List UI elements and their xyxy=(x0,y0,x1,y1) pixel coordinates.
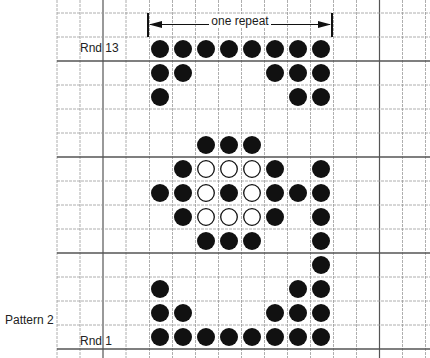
filled-circle-stitch xyxy=(220,232,238,250)
filled-circle-stitch xyxy=(197,136,215,154)
filled-circle-stitch xyxy=(151,64,169,82)
filled-circle-stitch xyxy=(312,88,330,106)
filled-circle-stitch xyxy=(289,64,307,82)
filled-circle-stitch xyxy=(220,136,238,154)
knitting-chart xyxy=(0,0,430,358)
round-13-label: Rnd 13 xyxy=(80,41,119,55)
filled-circle-stitch xyxy=(289,328,307,346)
open-circle-stitch xyxy=(198,161,215,178)
open-circle-stitch xyxy=(244,185,261,202)
filled-circle-stitch xyxy=(151,304,169,322)
filled-circle-stitch xyxy=(151,40,169,58)
filled-circle-stitch xyxy=(243,136,261,154)
filled-circle-stitch xyxy=(243,328,261,346)
open-circle-stitch xyxy=(198,209,215,226)
filled-circle-stitch xyxy=(151,184,169,202)
repeat-label: one repeat xyxy=(148,14,332,28)
filled-circle-stitch xyxy=(197,40,215,58)
round-1-label: Rnd 1 xyxy=(80,334,112,348)
filled-circle-stitch xyxy=(266,184,284,202)
filled-circle-stitch xyxy=(266,160,284,178)
open-circle-stitch xyxy=(221,209,238,226)
filled-circle-stitch xyxy=(312,40,330,58)
filled-circle-stitch xyxy=(220,184,238,202)
filled-circle-stitch xyxy=(289,280,307,298)
open-circle-stitch xyxy=(198,185,215,202)
filled-circle-stitch xyxy=(197,328,215,346)
filled-circle-stitch xyxy=(312,328,330,346)
filled-circle-stitch xyxy=(243,232,261,250)
pattern-label: Pattern 2 xyxy=(5,313,54,327)
filled-circle-stitch xyxy=(312,304,330,322)
filled-circle-stitch xyxy=(174,208,192,226)
filled-circle-stitch xyxy=(266,208,284,226)
filled-circle-stitch xyxy=(312,232,330,250)
open-circle-stitch xyxy=(221,161,238,178)
filled-circle-stitch xyxy=(151,328,169,346)
filled-circle-stitch xyxy=(174,160,192,178)
filled-circle-stitch xyxy=(289,40,307,58)
filled-circle-stitch xyxy=(243,40,261,58)
filled-circle-stitch xyxy=(174,184,192,202)
filled-circle-stitch xyxy=(151,88,169,106)
filled-circle-stitch xyxy=(266,64,284,82)
filled-circle-stitch xyxy=(289,184,307,202)
filled-circle-stitch xyxy=(289,304,307,322)
filled-circle-stitch xyxy=(220,40,238,58)
filled-circle-stitch xyxy=(174,40,192,58)
filled-circle-stitch xyxy=(312,208,330,226)
open-circle-stitch xyxy=(244,161,261,178)
filled-circle-stitch xyxy=(174,304,192,322)
filled-circle-stitch xyxy=(174,64,192,82)
stitch-symbols xyxy=(151,40,330,346)
repeat-label-text: one repeat xyxy=(209,14,270,28)
filled-circle-stitch xyxy=(174,328,192,346)
filled-circle-stitch xyxy=(266,328,284,346)
filled-circle-stitch xyxy=(266,304,284,322)
filled-circle-stitch xyxy=(312,184,330,202)
filled-circle-stitch xyxy=(266,40,284,58)
filled-circle-stitch xyxy=(220,328,238,346)
filled-circle-stitch xyxy=(312,256,330,274)
open-circle-stitch xyxy=(244,209,261,226)
filled-circle-stitch xyxy=(312,64,330,82)
filled-circle-stitch xyxy=(151,280,169,298)
filled-circle-stitch xyxy=(289,88,307,106)
filled-circle-stitch xyxy=(312,160,330,178)
filled-circle-stitch xyxy=(197,232,215,250)
filled-circle-stitch xyxy=(312,280,330,298)
